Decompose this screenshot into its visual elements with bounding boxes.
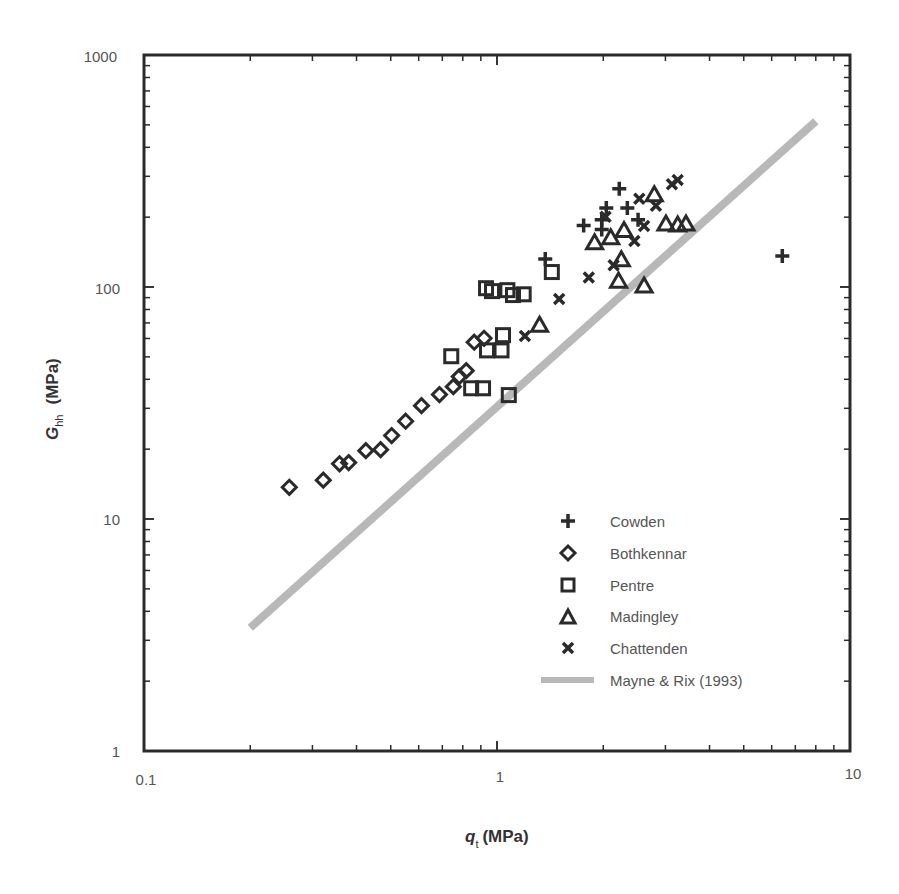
x-axis-title-unit: (MPa) xyxy=(482,827,528,846)
pentre-point xyxy=(495,344,508,357)
legend-item-chattenden: Chattenden xyxy=(563,640,688,657)
svg-text:Pentre: Pentre xyxy=(610,577,654,594)
pentre-point xyxy=(445,350,458,363)
bothkennar-point xyxy=(414,399,428,413)
cowden-point xyxy=(577,219,591,233)
madingley-point xyxy=(587,235,603,249)
svg-text:Bothkennar: Bothkennar xyxy=(610,545,687,562)
bothkennar-point xyxy=(359,444,373,458)
legend-item-pentre: Pentre xyxy=(562,577,654,594)
chattenden-point xyxy=(554,294,564,304)
bothkennar-point xyxy=(432,388,446,402)
pentre-point xyxy=(545,266,558,279)
pentre-point xyxy=(481,344,494,357)
bothkennar-point xyxy=(459,364,473,378)
diamond-marker-icon xyxy=(561,546,575,560)
chattenden-point xyxy=(520,331,530,341)
y-tick-1: 1 xyxy=(112,743,120,760)
mayne-rix-trend-line xyxy=(250,121,816,627)
madingley-point xyxy=(646,187,662,201)
scatter-chart: 1000 100 10 1 0.1 1 10 qt(MPa) Ghh(MPa) … xyxy=(0,0,899,894)
cowden-point xyxy=(620,201,634,215)
legend-item-cowden: Cowden xyxy=(561,513,665,530)
square-marker-icon xyxy=(562,579,574,591)
y-axis-title-sub: hh xyxy=(53,415,65,427)
x-tick-10: 10 xyxy=(845,765,862,782)
x-axis-title: qt(MPa) xyxy=(465,827,529,850)
svg-text:Madingley: Madingley xyxy=(610,608,679,625)
plus-marker-icon xyxy=(561,514,575,528)
madingley-point xyxy=(616,223,632,237)
data-points xyxy=(282,175,789,494)
cowden-point xyxy=(775,249,789,263)
y-tick-10: 10 xyxy=(103,511,120,528)
madingley-point xyxy=(611,273,627,287)
bothkennar-point xyxy=(316,473,330,487)
x-tick-1: 1 xyxy=(496,768,504,785)
svg-text:Cowden: Cowden xyxy=(610,513,665,530)
trend-line xyxy=(250,121,816,627)
chattenden-point xyxy=(634,194,644,204)
madingley-point xyxy=(532,317,548,331)
svg-text:Chattenden: Chattenden xyxy=(610,640,688,657)
y-tick-100: 100 xyxy=(95,280,120,297)
x-tick-0.1: 0.1 xyxy=(136,771,157,788)
y-axis-title-main: G xyxy=(43,427,62,440)
y-axis-title-unit: (MPa) xyxy=(43,358,62,404)
legend: Cowden Bothkennar Pentre Madingley Chatt… xyxy=(541,513,743,689)
bothkennar-point xyxy=(399,414,413,428)
x-axis-title-sub: t xyxy=(475,838,478,850)
bothkennar-point xyxy=(374,443,388,457)
y-axis-title: Ghh(MPa) xyxy=(43,358,65,440)
legend-item-mayne-rix: Mayne & Rix (1993) xyxy=(541,672,743,689)
svg-text:Mayne & Rix (1993): Mayne & Rix (1993) xyxy=(610,672,743,689)
pentre-point xyxy=(497,329,510,342)
legend-item-bothkennar: Bothkennar xyxy=(561,545,687,562)
y-tick-1000: 1000 xyxy=(84,48,117,65)
x-axis-title-main: q xyxy=(465,827,476,846)
chattenden-point xyxy=(629,236,639,246)
chattenden-point xyxy=(639,221,649,231)
cowden-point xyxy=(612,182,626,196)
madingley-point xyxy=(678,216,694,230)
x-marker-icon xyxy=(563,643,573,653)
legend-item-madingley: Madingley xyxy=(561,608,679,625)
chattenden-point xyxy=(584,272,594,282)
chattenden-point xyxy=(651,201,661,211)
cowden-point xyxy=(538,252,552,266)
bothkennar-point xyxy=(282,480,296,494)
bothkennar-point xyxy=(385,429,399,443)
triangle-marker-icon xyxy=(561,610,575,623)
